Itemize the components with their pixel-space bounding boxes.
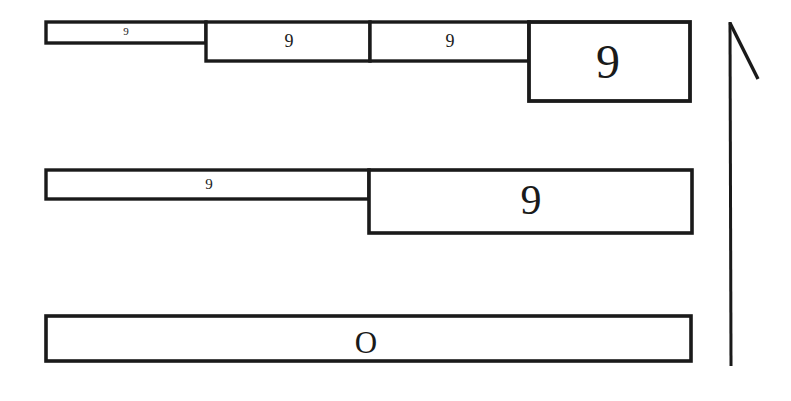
diagram-canvas: 9 9 9 9 9 9 O [0,0,791,401]
marker-diagonal-line [730,23,758,79]
marker-vertical-line [730,22,731,366]
segment-glyph-r3s1: O [355,327,377,358]
segment-glyph-r2s2: 9 [521,179,542,221]
diagram-svg [0,0,791,401]
segment-glyph-r1s4: 9 [596,38,620,86]
bracket-marker [730,22,758,366]
segment-glyph-r2s1: 9 [205,177,213,192]
segment-glyph-r1s1: 9 [123,26,129,37]
bar-row-1 [46,22,690,101]
segment-glyph-r1s2: 9 [285,32,294,50]
bar-row-2 [46,170,692,233]
segment-glyph-r1s3: 9 [446,32,455,50]
